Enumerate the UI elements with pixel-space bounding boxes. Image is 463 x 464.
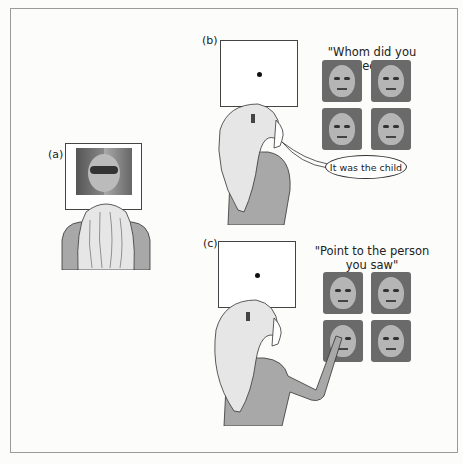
panel-b-screen — [220, 40, 298, 107]
chimeric-face-image — [76, 148, 132, 195]
panel-a-label: (a) — [48, 148, 63, 161]
fixation-point — [255, 273, 260, 278]
girl-back-view — [58, 200, 154, 270]
panel-c-question-line1: "Point to the person — [312, 244, 432, 258]
face-child — [371, 60, 411, 102]
face-old-man — [371, 320, 411, 362]
speech-text: It was the child — [330, 162, 402, 173]
speech-pointer — [280, 140, 330, 170]
face-woman — [322, 60, 362, 102]
fixation-point — [257, 72, 262, 77]
girl-pointing-view-c — [206, 296, 346, 426]
panel-c-label: (c) — [203, 237, 218, 250]
face-child — [371, 272, 411, 314]
panel-b-label: (b) — [202, 34, 218, 47]
panel-c-question-line2: you saw" — [312, 258, 432, 272]
speech-bubble: It was the child — [325, 155, 407, 179]
face-old-man — [371, 108, 411, 150]
